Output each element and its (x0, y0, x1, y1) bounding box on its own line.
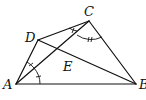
label-a: A (2, 77, 12, 92)
label-e: E (62, 59, 73, 74)
angle-arc-c-right (77, 35, 102, 40)
angle-tick-a-lower (36, 76, 41, 77)
label-d: D (24, 30, 36, 45)
label-b: B (138, 77, 146, 92)
geometry-figure: A B C D E (0, 0, 146, 100)
label-c: C (84, 4, 94, 19)
angle-tick-c-right-1 (88, 37, 89, 42)
segment-db (38, 40, 136, 84)
segment-bc (89, 21, 136, 84)
angle-tick-c-right-2 (91, 37, 92, 42)
